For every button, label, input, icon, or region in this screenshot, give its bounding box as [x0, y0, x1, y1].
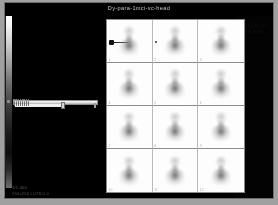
slider-thumb[interactable] — [61, 102, 65, 109]
slider-label: Window — [13, 98, 30, 103]
scan-cell[interactable]: 9 — [198, 106, 244, 149]
slider-endcap — [94, 103, 96, 108]
scan-cell-index: 12 — [200, 188, 204, 192]
image-viewport[interactable]: Dy-para-1mci-vc-head Window 1/1 400 — [4, 2, 274, 199]
scan-cell[interactable]: 1 — [107, 20, 153, 63]
title-bar: Dy-para-1mci-vc-head — [5, 3, 273, 16]
scan-cell-index: 6 — [200, 101, 202, 105]
scan-cell[interactable]: 11 — [153, 149, 199, 192]
scan-hotspot — [126, 171, 133, 180]
scan-cell-index: 2 — [154, 58, 156, 62]
scan-hotspot — [218, 84, 225, 93]
scan-cell-index: 8 — [154, 144, 156, 148]
scan-image — [204, 154, 238, 188]
scan-cell-index: 10 — [109, 188, 113, 192]
colorbar-level-marker[interactable] — [7, 100, 10, 103]
scan-image — [204, 24, 238, 58]
application-window: Dy-para-1mci-vc-head Window 1/1 400 — [0, 0, 278, 205]
scan-cell[interactable]: 7 — [107, 106, 153, 149]
scan-cell[interactable]: 10 — [107, 149, 153, 192]
scan-cell[interactable]: 5 — [153, 63, 199, 106]
scan-hotspot — [218, 41, 225, 50]
scan-image — [112, 110, 146, 144]
scan-cell[interactable]: 6 — [198, 63, 244, 106]
scan-cell-index: 4 — [109, 101, 111, 105]
scan-cell-index: 3 — [200, 58, 202, 62]
scan-image — [158, 110, 192, 144]
scan-cell-index: 9 — [200, 144, 202, 148]
scan-hotspot — [171, 84, 178, 93]
scan-cell[interactable]: 4 — [107, 63, 153, 106]
scan-hotspot — [171, 41, 178, 50]
annotation-arrow-icon[interactable] — [109, 39, 131, 46]
scan-hotspot — [171, 127, 178, 136]
scan-image — [158, 67, 192, 101]
scan-image — [158, 154, 192, 188]
scan-cell[interactable]: 12 — [198, 149, 244, 192]
scan-cell-index: 7 — [109, 144, 111, 148]
scan-image — [112, 67, 146, 101]
control-panel: Window 1/1 400 256x256 LUT8.0.0 — [5, 16, 104, 199]
scan-image — [112, 154, 146, 188]
scan-cell-index: 1 — [109, 58, 111, 62]
status-block: 1/1 400 256x256 LUT8.0.0 — [12, 185, 82, 196]
scan-cell[interactable]: 3 — [198, 20, 244, 63]
scan-image — [204, 110, 238, 144]
annotation-dot-icon[interactable] — [155, 41, 157, 43]
scan-hotspot — [126, 84, 133, 93]
scan-hotspot — [126, 127, 133, 136]
scan-hotspot — [218, 127, 225, 136]
status-line-matrix: 256x256 LUT8.0.0 — [12, 191, 82, 196]
scan-cell[interactable]: 8 — [153, 106, 199, 149]
scan-image — [204, 67, 238, 101]
scan-hotspot — [171, 171, 178, 180]
study-title: Dy-para-1mci-vc-head — [5, 5, 273, 11]
scan-image — [158, 24, 192, 58]
window-level-slider[interactable]: Window — [13, 98, 98, 108]
scan-cell[interactable]: 2 — [153, 20, 199, 63]
scan-hotspot — [218, 171, 225, 180]
scan-cell-index: 11 — [154, 188, 158, 192]
scan-image-grid[interactable]: 1 2 3 — [106, 19, 245, 193]
scan-cell-index: 5 — [154, 101, 156, 105]
